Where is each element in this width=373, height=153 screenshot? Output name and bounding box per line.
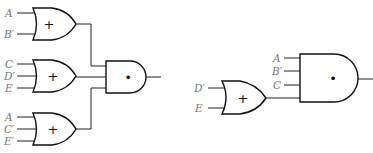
or-symbol: + xyxy=(48,69,59,84)
input-label: B′ xyxy=(271,65,283,77)
input-label: E xyxy=(4,82,13,94)
input-label: A xyxy=(4,7,13,19)
right-circuit: + D′ E • A B′ C xyxy=(193,52,373,114)
or-gate-1: + A B′ xyxy=(3,7,76,40)
and-gate: • xyxy=(106,61,161,93)
or-symbol: + xyxy=(238,91,249,106)
and-symbol: • xyxy=(124,70,132,85)
input-label: C xyxy=(5,58,13,70)
input-label: A xyxy=(272,52,281,64)
input-label: A xyxy=(4,111,13,123)
input-label: C xyxy=(273,79,281,91)
or-symbol: + xyxy=(48,122,59,137)
or-symbol: + xyxy=(44,17,55,32)
input-label: B′ xyxy=(3,28,15,40)
logic-diagram: + A B′ + C D′ E + A C′ E′ xyxy=(0,0,373,153)
input-label: C′ xyxy=(4,123,15,135)
and-gate: • A B′ C xyxy=(271,52,373,102)
or-gate-2: + C D′ E xyxy=(3,58,76,94)
input-label: D′ xyxy=(3,70,15,82)
input-label: E′ xyxy=(3,135,15,147)
or-gate: + D′ E xyxy=(193,81,266,114)
input-label: D′ xyxy=(193,82,205,94)
left-circuit: + A B′ + C D′ E + A C′ E′ xyxy=(3,7,161,147)
or-gate-3: + A C′ E′ xyxy=(3,111,76,147)
input-label: E xyxy=(194,102,203,114)
and-symbol: • xyxy=(329,71,337,86)
